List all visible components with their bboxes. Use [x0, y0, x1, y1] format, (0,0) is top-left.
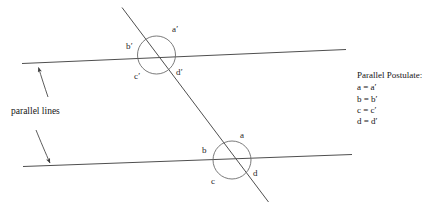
angle-label-c-prime: c′ — [134, 72, 140, 81]
upper-line-pointer-arrow — [39, 68, 49, 98]
postulate-equation-c: c = c′ — [357, 105, 422, 116]
angle-label-b: b — [202, 146, 207, 155]
angle-label-c: c — [211, 177, 215, 186]
angle-label-d-prime: d′ — [176, 68, 183, 77]
angle-label-b-prime: b′ — [126, 42, 133, 51]
postulate-equation-a: a = a′ — [357, 82, 422, 93]
parallel-lines-diagram: parallel lines a′ b′ c′ d′ a b c d Paral… — [0, 0, 440, 216]
lower-line-pointer-arrow — [36, 130, 50, 163]
postulate-equation-b: b = b′ — [357, 94, 422, 105]
angle-label-a: a — [240, 131, 244, 140]
parallel-postulate-legend: Parallel Postulate: a = a′ b = b′ c = c′… — [357, 70, 422, 127]
upper-parallel-line — [22, 50, 346, 64]
parallel-lines-label: parallel lines — [11, 107, 60, 117]
lower-parallel-line — [23, 155, 352, 167]
angle-label-a-prime: a′ — [172, 25, 178, 34]
postulate-equation-d: d = d′ — [357, 116, 422, 127]
postulate-title: Parallel Postulate: — [357, 70, 422, 81]
upper-intersection-circle — [138, 36, 176, 74]
lower-intersection-circle — [213, 141, 251, 179]
angle-label-d: d — [253, 169, 258, 178]
